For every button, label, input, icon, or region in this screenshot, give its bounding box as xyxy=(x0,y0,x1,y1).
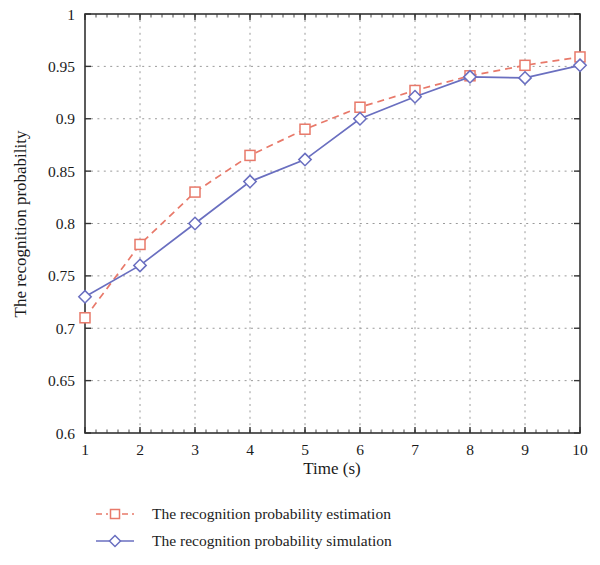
y-tick-label: 0.65 xyxy=(48,372,75,389)
y-tick-label: 0.9 xyxy=(56,110,76,127)
y-tick-label: 0.75 xyxy=(48,267,75,284)
data-point-square xyxy=(135,239,145,249)
data-point-square xyxy=(190,187,200,197)
data-point-square xyxy=(300,124,310,134)
x-axis-title: Time (s) xyxy=(303,459,360,478)
data-point-square xyxy=(355,102,365,112)
y-tick-label: 0.85 xyxy=(48,163,75,180)
x-tick-label: 2 xyxy=(136,441,144,458)
x-tick-label: 1 xyxy=(81,441,89,458)
data-point-square xyxy=(520,60,530,70)
y-tick-label: 1 xyxy=(67,6,75,23)
x-tick-label: 3 xyxy=(191,441,199,458)
y-tick-label: 0.8 xyxy=(56,215,76,232)
legend-label-simulation: The recognition probability simulation xyxy=(152,532,392,549)
recognition-probability-line-chart: 12345678910 0.60.650.70.750.80.850.90.95… xyxy=(0,0,600,565)
y-axis-title: The recognition probability xyxy=(11,130,30,317)
data-point-square xyxy=(245,150,255,160)
y-tick-label: 0.6 xyxy=(56,425,76,442)
x-tick-label: 6 xyxy=(356,441,364,458)
x-tick-label: 5 xyxy=(301,441,309,458)
figure-background xyxy=(0,0,600,565)
x-tick-label: 8 xyxy=(466,441,474,458)
chart-figure: 12345678910 0.60.650.70.750.80.850.90.95… xyxy=(0,0,600,565)
x-tick-label: 7 xyxy=(411,441,419,458)
x-tick-label: 9 xyxy=(521,441,529,458)
y-tick-label: 0.95 xyxy=(48,58,75,75)
legend-label-estimation: The recognition probability estimation xyxy=(152,505,391,522)
x-tick-label: 4 xyxy=(246,441,254,458)
data-point-square xyxy=(80,313,90,323)
x-tick-label: 10 xyxy=(572,441,588,458)
y-tick-label: 0.7 xyxy=(56,320,76,337)
